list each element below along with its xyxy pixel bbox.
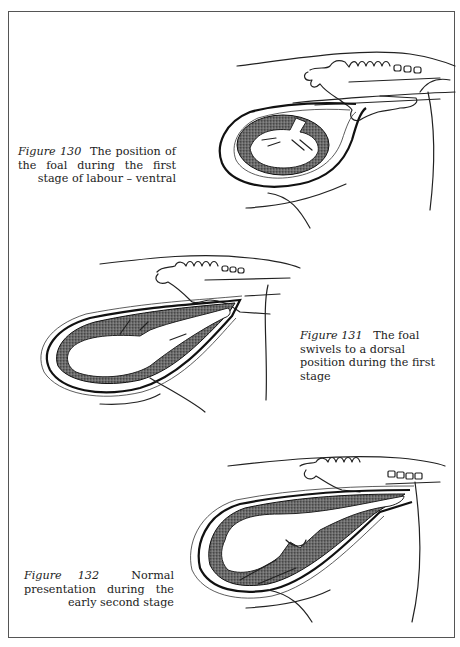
figure-130-illustration (220, 52, 455, 228)
figure-130-caption: Figure 130 The position of the foal duri… (18, 145, 176, 186)
illustrations (0, 0, 460, 647)
figure-132-caption: Figure 132 Normal presentation during th… (24, 569, 174, 610)
figure-131-illustration (41, 256, 300, 412)
figure-131-label: Figure 131 (300, 329, 363, 342)
figure-132-label: Figure 132 (24, 569, 99, 582)
figure-132-illustration (191, 457, 445, 622)
figure-130-label: Figure 130 (18, 145, 81, 158)
figure-131-caption: Figure 131 The foal swivels to a dorsal … (300, 329, 450, 383)
